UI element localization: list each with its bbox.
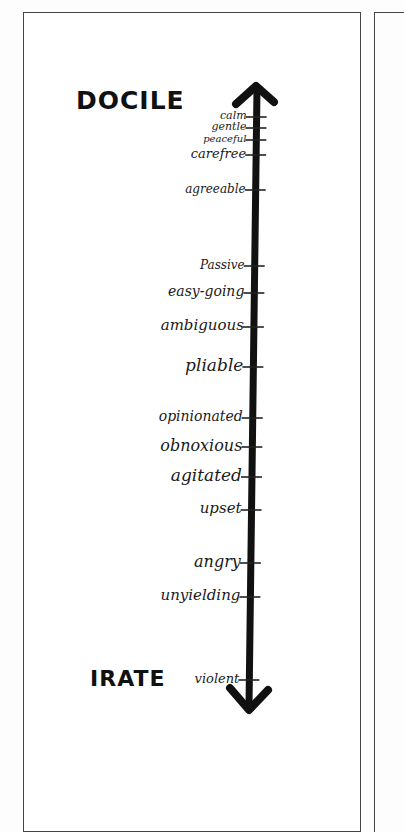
- arrow-shaft: [249, 88, 257, 706]
- bottom-label-irate: IRATE: [90, 666, 165, 691]
- term-label: peaceful: [203, 133, 246, 144]
- term-label: opinionated: [159, 408, 243, 424]
- top-label-docile: DOCILE: [76, 86, 185, 115]
- term-label: unyielding: [160, 586, 240, 604]
- term-label: Passive: [200, 258, 245, 272]
- term-label: violent: [195, 671, 240, 686]
- term-label: easy-going: [168, 283, 244, 299]
- term-label: carefree: [191, 146, 246, 161]
- term-label: obnoxious: [160, 436, 242, 455]
- term-label: agitated: [171, 465, 242, 485]
- term-label: ambiguous: [161, 316, 244, 334]
- term-label: agreeable: [185, 182, 246, 196]
- term-label: upset: [200, 499, 242, 517]
- term-label: pliable: [185, 355, 243, 375]
- term-label: gentle: [211, 120, 246, 133]
- term-label: angry: [194, 552, 241, 571]
